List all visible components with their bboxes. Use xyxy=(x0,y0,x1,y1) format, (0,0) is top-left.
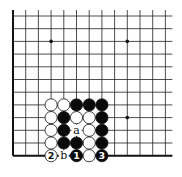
black-stone: 1 xyxy=(70,150,82,162)
white-stone xyxy=(45,99,57,111)
white-stone-icon xyxy=(45,112,57,124)
black-stone xyxy=(58,112,70,124)
black-stone: 3 xyxy=(96,150,108,162)
black-stone xyxy=(96,99,108,111)
white-stone-icon xyxy=(83,112,95,124)
black-stone-icon xyxy=(58,124,70,136)
go-board-diagram: 213 ab xyxy=(0,0,182,177)
star-point-icon xyxy=(126,116,130,120)
black-stone xyxy=(83,99,95,111)
white-stone xyxy=(83,124,95,136)
black-stone xyxy=(96,137,108,149)
white-stone-icon xyxy=(83,124,95,136)
white-stone xyxy=(45,112,57,124)
white-stone xyxy=(83,150,95,162)
white-stone xyxy=(45,137,57,149)
white-stone xyxy=(83,112,95,124)
white-stone-icon xyxy=(58,99,70,111)
black-stone-icon xyxy=(96,137,108,149)
move-number: 3 xyxy=(99,150,106,161)
black-stone xyxy=(96,112,108,124)
white-stone xyxy=(83,137,95,149)
white-stone xyxy=(45,124,57,136)
black-stone-icon xyxy=(58,112,70,124)
white-stone-icon xyxy=(45,137,57,149)
black-stone xyxy=(96,124,108,136)
black-stone-icon xyxy=(96,112,108,124)
black-stone-icon xyxy=(70,137,82,149)
star-point-icon xyxy=(126,40,130,44)
black-stone xyxy=(70,99,82,111)
black-stone xyxy=(58,124,70,136)
black-stone xyxy=(58,137,70,149)
white-stone-icon xyxy=(83,150,95,162)
point-label: b xyxy=(60,149,67,162)
white-stone xyxy=(70,112,82,124)
black-stone-icon xyxy=(58,137,70,149)
star-point-icon xyxy=(49,40,53,44)
move-number: 1 xyxy=(73,150,80,161)
white-stone: 2 xyxy=(45,150,57,162)
white-stone-icon xyxy=(45,99,57,111)
black-stone xyxy=(70,137,82,149)
black-stone-icon xyxy=(96,99,108,111)
white-stone-icon xyxy=(70,112,82,124)
white-stone-icon xyxy=(45,124,57,136)
white-stone-icon xyxy=(83,137,95,149)
white-stone xyxy=(58,99,70,111)
black-stone-icon xyxy=(70,99,82,111)
point-label: a xyxy=(73,124,80,137)
black-stone-icon xyxy=(96,124,108,136)
black-stone-icon xyxy=(83,99,95,111)
move-number: 2 xyxy=(48,150,55,161)
